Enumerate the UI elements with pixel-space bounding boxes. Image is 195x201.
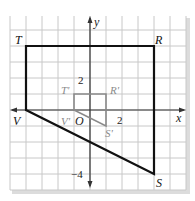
tick-label-y-neg-4: −4 xyxy=(71,168,83,180)
coordinate-plane-diagram: y x O 2 2 −4 T R S V T' R' S' V' xyxy=(0,0,195,201)
vertex-label-R-prime: R' xyxy=(109,84,120,96)
origin-label: O xyxy=(75,114,84,128)
tick-label-x-2: 2 xyxy=(117,114,123,126)
x-axis-label: x xyxy=(175,111,182,125)
vertex-label-S: S xyxy=(156,176,162,190)
y-axis-label: y xyxy=(93,15,100,29)
vertex-label-R: R xyxy=(154,33,163,47)
vertex-label-T-prime: T' xyxy=(61,84,70,96)
tick-label-y-2: 2 xyxy=(78,74,84,86)
vertex-label-V-prime: V' xyxy=(61,115,71,127)
vertex-label-S-prime: S' xyxy=(105,127,114,139)
